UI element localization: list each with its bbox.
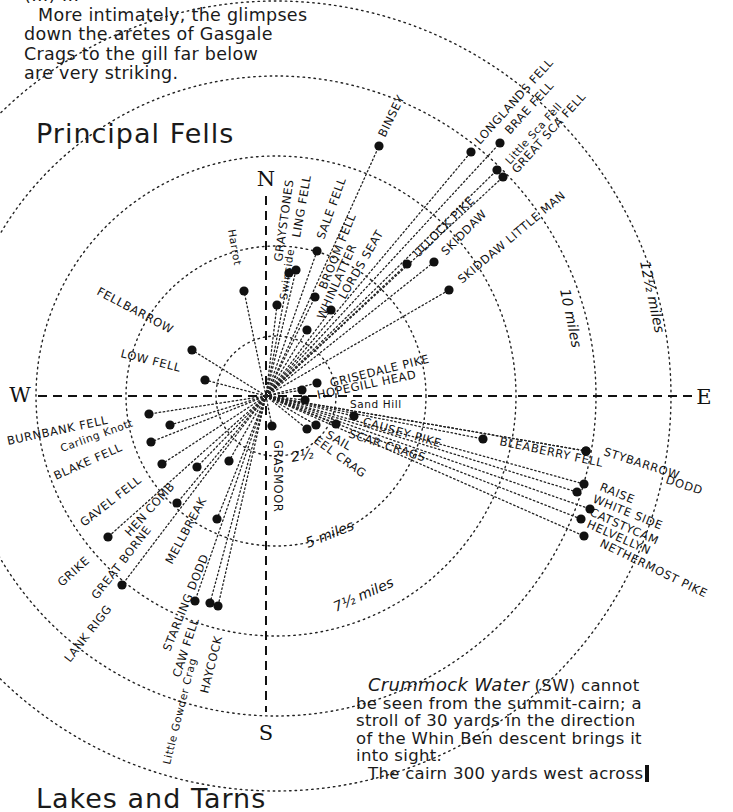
fell-marker (466, 147, 475, 156)
compass-s: S (259, 721, 273, 745)
fell-label: DODD (664, 473, 704, 498)
fell-marker (103, 532, 112, 541)
sight-line (205, 380, 266, 396)
distance-label: 7½ miles (331, 574, 396, 615)
fell-marker (349, 411, 358, 420)
fell-marker (402, 259, 411, 268)
sight-line (162, 396, 266, 464)
fell-marker (302, 424, 311, 433)
fell-label: HAYCOCK (197, 634, 225, 695)
fell-marker (205, 598, 214, 607)
compass-n: N (257, 167, 275, 191)
fell-label: FELLBARROW (95, 284, 176, 336)
fell-label: BINSEY (375, 92, 408, 139)
fell-marker (444, 285, 453, 294)
fell-marker (192, 462, 201, 471)
footnote-paragraph: Crummock Water (SW) cannot be seen from … (356, 676, 726, 782)
fell-label: Sand Hill (350, 398, 402, 410)
fell-marker (239, 286, 248, 295)
fell-marker (492, 165, 501, 174)
distance-label: 5 miles (303, 517, 356, 551)
fell-marker (429, 257, 438, 266)
footnote-line: (SW) cannot (529, 676, 639, 695)
fell-marker (579, 479, 588, 488)
fell-marker (498, 172, 507, 181)
distance-label: 12½ miles (637, 259, 668, 334)
fell-marker (312, 378, 321, 387)
footnote-line: be seen from the summit-cairn; a (356, 695, 726, 713)
fell-marker (117, 580, 126, 589)
fell-marker (572, 487, 581, 496)
fell-marker (267, 421, 276, 430)
sight-line (177, 396, 266, 503)
fell-marker (300, 395, 309, 404)
fell-marker (312, 246, 321, 255)
fell-marker (495, 138, 504, 147)
fell-marker (310, 292, 319, 301)
fell-marker (576, 514, 585, 523)
fell-marker (302, 325, 311, 334)
sight-line (192, 350, 266, 396)
margin-bar-icon (645, 765, 649, 782)
distance-label: 10 miles (557, 287, 585, 349)
fell-marker (478, 434, 487, 443)
fell-marker (200, 375, 209, 384)
compass-w: W (9, 383, 31, 407)
fell-marker (165, 420, 174, 429)
fell-label: GREAT BORNE (88, 523, 154, 602)
sight-line (244, 291, 266, 396)
fell-label: Harrot (226, 228, 244, 266)
sight-line (122, 396, 266, 585)
footnote-line: The cairn 300 yards west across (368, 764, 643, 783)
sight-line (266, 396, 584, 536)
distance-label: 2½ (290, 445, 315, 465)
sight-line (149, 396, 266, 414)
fell-marker (331, 419, 340, 428)
sight-line (266, 305, 277, 396)
next-section-title: Lakes and Tarns (36, 783, 266, 812)
fell-labels: BINSEYLONGLANDS FELLBRAE FELLLittle Sca … (6, 55, 710, 765)
fell-marker (579, 531, 588, 540)
footnote-line: of the Whin Ben descent brings it (356, 730, 726, 748)
fell-label: LANK RIGG (61, 602, 114, 665)
fell-marker (311, 420, 320, 429)
fell-marker (224, 456, 233, 465)
fell-label: GRIKE (55, 553, 93, 589)
fell-label: BLEABERRY FELL (498, 434, 604, 470)
fell-label: GRASMOOR (271, 440, 285, 512)
fell-marker (212, 514, 221, 523)
fell-marker (157, 459, 166, 468)
fell-marker (144, 409, 153, 418)
footnote-line: stroll of 30 yards in the direction (356, 712, 726, 730)
compass-e: E (696, 385, 711, 409)
fell-marker (272, 300, 281, 309)
lake-name: Crummock Water (368, 674, 529, 695)
fell-marker (213, 601, 222, 610)
fell-marker (187, 345, 196, 354)
fell-marker (297, 385, 306, 394)
fell-marker (374, 141, 383, 150)
fell-marker (172, 498, 181, 507)
fell-marker (146, 437, 155, 446)
footnote-line: into sight. (356, 747, 726, 765)
